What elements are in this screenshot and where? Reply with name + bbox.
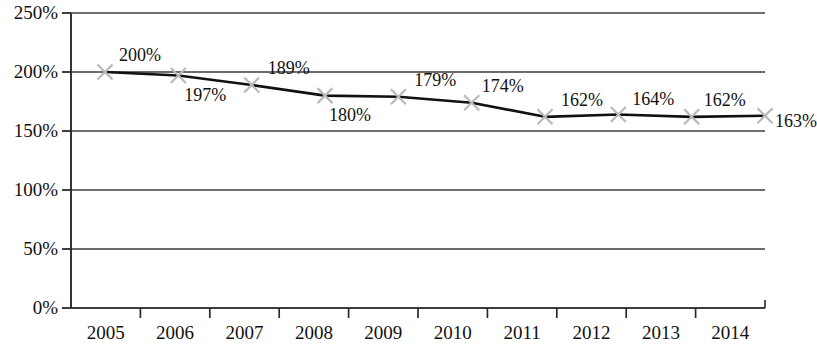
x-axis-tick-label: 2010 [413,323,493,342]
y-axis-tick-label: 100% [14,180,58,199]
data-point-label: 179% [414,71,456,89]
data-point-label: 163% [775,112,817,130]
y-axis-tick-label: 50% [23,239,58,258]
data-point-label: 174% [482,77,524,95]
x-tick-group [140,308,695,318]
data-point-label: 164% [632,90,674,108]
data-point-label: 200% [119,46,161,64]
x-axis-tick-label: 2013 [621,323,701,342]
x-axis-tick-label: 2005 [66,323,146,342]
x-axis-tick-label: 2012 [552,323,632,342]
x-axis-tick-label: 2007 [205,323,285,342]
data-point-label: 162% [704,91,746,109]
y-tick-group [62,13,71,308]
axis-group [71,13,765,308]
x-axis-tick-label: 2014 [690,323,770,342]
x-axis-tick-label: 2009 [343,323,423,342]
y-axis-tick-label: 150% [14,121,58,140]
data-point-label: 197% [184,86,226,104]
data-point-label: 189% [268,59,310,77]
gridline-group [71,13,765,308]
y-axis-tick-label: 250% [14,3,58,22]
y-axis-tick-label: 0% [33,298,58,317]
x-axis-tick-label: 2011 [482,323,562,342]
x-axis-tick-label: 2006 [135,323,215,342]
x-axis-tick-label: 2008 [274,323,354,342]
data-point-label: 180% [329,106,371,124]
y-axis-tick-label: 200% [14,62,58,81]
data-point-label: 162% [561,91,603,109]
